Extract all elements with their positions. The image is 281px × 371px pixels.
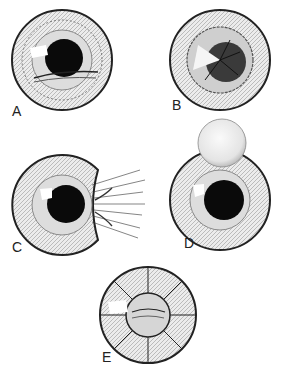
panel-e-iris [100,267,196,363]
panel-c-iris [12,155,145,255]
panel-d-iris [170,119,270,250]
panel-label-e: E [102,350,111,364]
panel-label-d: D [184,236,194,250]
panel-a-iris [12,10,112,110]
bubble [198,119,246,167]
panel-label-c: C [12,240,22,254]
panel-label-a: A [12,104,21,118]
panel-label-b: B [172,98,181,112]
panel-b-iris [170,10,270,110]
eye-illustration-figure [0,0,281,371]
radiating-fibers [92,170,145,238]
